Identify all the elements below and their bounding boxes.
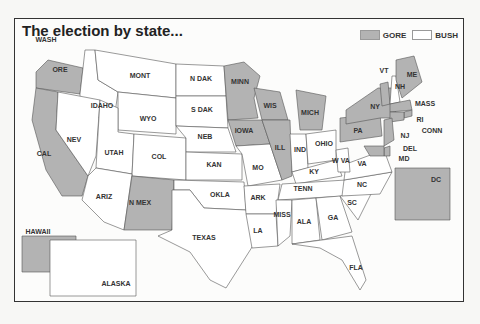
- state-label-ga: GA: [328, 214, 339, 221]
- state-label-mass: MASS: [415, 100, 436, 107]
- state-label-nj: NJ: [401, 132, 410, 139]
- state-label-ohio: OHIO: [315, 140, 333, 147]
- state-label-fla: FLA: [349, 264, 363, 271]
- state-label-del: DEL: [403, 145, 418, 152]
- state-label-w-va: W VA: [332, 157, 350, 164]
- state-wyo: [118, 92, 176, 134]
- state-miss: [276, 200, 292, 246]
- state-label-col: COL: [152, 153, 168, 160]
- state-label-ark: ARK: [250, 194, 265, 201]
- state-label-n-dak: N DAK: [190, 75, 212, 82]
- state-label-mont: MONT: [130, 72, 151, 79]
- state-label-ri: RI: [417, 116, 424, 123]
- state-label-n-mex: N MEX: [129, 199, 152, 206]
- state-label-hawaii: HAWAII: [26, 228, 51, 235]
- state-label-la: LA: [253, 227, 262, 234]
- state-alaska: [50, 240, 136, 296]
- state-label-kan: KAN: [206, 161, 221, 168]
- state-ri: [404, 110, 412, 118]
- state-label-ala: ALA: [297, 218, 311, 225]
- state-label-utah: UTAH: [105, 149, 124, 156]
- state-label-ny: NY: [370, 103, 380, 110]
- state-label-wash: WASH: [36, 36, 57, 43]
- state-label-conn: CONN: [422, 127, 443, 134]
- state-label-sc: SC: [347, 199, 357, 206]
- state-dc: [395, 168, 450, 220]
- state-label-alaska: ALASKA: [101, 280, 130, 287]
- state-label-cal: CAL: [37, 150, 52, 157]
- state-label-ky: KY: [309, 168, 319, 175]
- state-label-md: MD: [399, 155, 410, 162]
- state-vt: [380, 82, 390, 106]
- state-label-wis: WIS: [263, 102, 277, 109]
- state-nj: [384, 118, 394, 146]
- state-label-ind: IND: [294, 146, 306, 153]
- state-ind: [290, 134, 308, 172]
- state-label-ore: ORE: [52, 66, 68, 73]
- state-label-tenn: TENN: [293, 185, 312, 192]
- state-label-okla: OKLA: [210, 191, 230, 198]
- state-label-wyo: WYO: [140, 115, 157, 122]
- state-label-mo: MO: [252, 164, 264, 171]
- state-fla: [292, 236, 366, 290]
- state-label-va: VA: [357, 160, 366, 167]
- state-label-ill: ILL: [275, 144, 286, 151]
- state-md: [364, 146, 384, 156]
- state-label-ariz: ARIZ: [96, 193, 113, 200]
- state-label-miss: MISS: [273, 211, 290, 218]
- state-label-pa: PA: [353, 127, 362, 134]
- state-label-idaho: IDAHO: [91, 102, 114, 109]
- state-label-vt: VT: [380, 67, 390, 74]
- state-label-dc: DC: [431, 176, 441, 183]
- state-label-texas: TEXAS: [192, 234, 216, 241]
- state-label-iowa: IOWA: [235, 127, 254, 134]
- state-label-mich: MICH: [301, 109, 319, 116]
- state-del: [384, 146, 390, 156]
- state-label-me: ME: [407, 71, 418, 78]
- state-label-nc: NC: [357, 181, 367, 188]
- state-label-neb: NEB: [198, 133, 213, 140]
- state-label-nev: NEV: [67, 136, 82, 143]
- state-label-minn: MINN: [231, 78, 249, 85]
- state-label-s-dak: S DAK: [191, 106, 213, 113]
- us-map: WASHORECALIDAHONEVMONTWYOUTAHCOLARIZN ME…: [0, 0, 480, 324]
- state-label-nh: NH: [395, 83, 405, 90]
